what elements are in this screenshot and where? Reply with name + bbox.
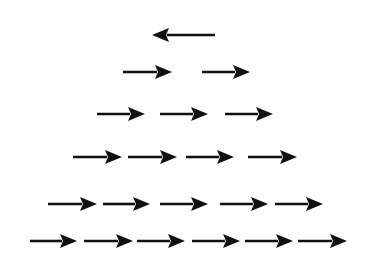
arrow-right-icon bbox=[137, 234, 185, 248]
arrow-right-icon bbox=[186, 150, 234, 164]
arrow-right-icon bbox=[48, 197, 97, 211]
arrow-right-icon bbox=[123, 65, 172, 79]
arrow-right-icon bbox=[225, 107, 273, 121]
arrow-right-icon bbox=[245, 234, 293, 248]
arrow-right-icon bbox=[192, 234, 240, 248]
arrow-right-icon bbox=[160, 107, 208, 121]
arrow-right-icon bbox=[73, 150, 122, 164]
arrow-row-2 bbox=[123, 65, 250, 79]
arrow-right-icon bbox=[248, 150, 297, 164]
arrow-right-icon bbox=[220, 197, 268, 211]
arrow-row-3 bbox=[97, 107, 273, 121]
arrow-right-icon bbox=[97, 107, 145, 121]
arrow-right-icon bbox=[30, 234, 77, 248]
arrow-right-icon bbox=[103, 197, 150, 211]
arrow-right-icon bbox=[160, 197, 208, 211]
arrow-row-5 bbox=[48, 197, 323, 211]
arrow-right-icon bbox=[275, 197, 323, 211]
arrow-pyramid-diagram bbox=[0, 0, 372, 269]
arrow-right-icon bbox=[128, 150, 177, 164]
arrow-row-4 bbox=[73, 150, 297, 164]
arrow-left-icon bbox=[152, 28, 215, 42]
arrow-right-icon bbox=[202, 65, 250, 79]
arrow-row-1 bbox=[152, 28, 215, 42]
arrow-right-icon bbox=[298, 234, 347, 248]
arrow-right-icon bbox=[84, 234, 133, 248]
arrow-row-6 bbox=[30, 234, 347, 248]
